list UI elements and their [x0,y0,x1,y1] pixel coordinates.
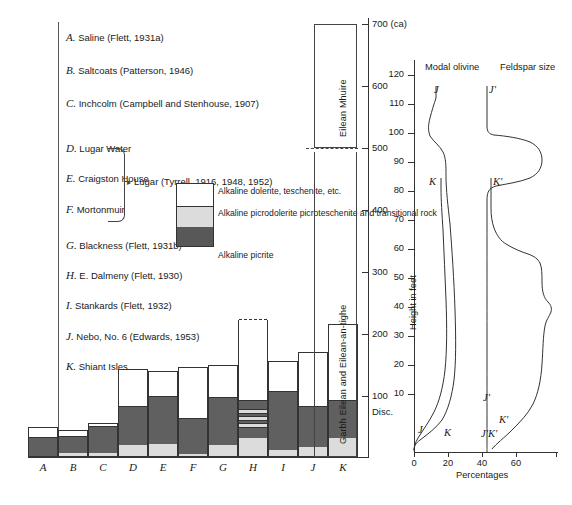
curve-label-k-olivine: K [429,176,436,187]
curve-modal-olivine-k [414,178,447,451]
figure-root: A. Saline (Flett, 1931a) B. Saltcoats (P… [0,0,572,505]
curve-modal-olivine-j [414,86,456,450]
curve-base-label-j-olivine: J [418,424,423,435]
curve-base-label-jk-feldspar: J'K' [481,428,497,439]
curve-label-k-feldspar: K' [493,176,502,187]
curve-base-label-j-feldspar: J' [483,392,490,403]
curve-feldspar-size-k [491,178,551,449]
curve-label-j-olivine: J [434,84,439,95]
curve-label-j-feldspar: J' [489,84,496,95]
curve-base-label-k-olivine: K [444,427,451,438]
curve-feldspar-size-j [487,86,542,452]
curve-base-label-k-feldspar: K' [499,414,508,425]
